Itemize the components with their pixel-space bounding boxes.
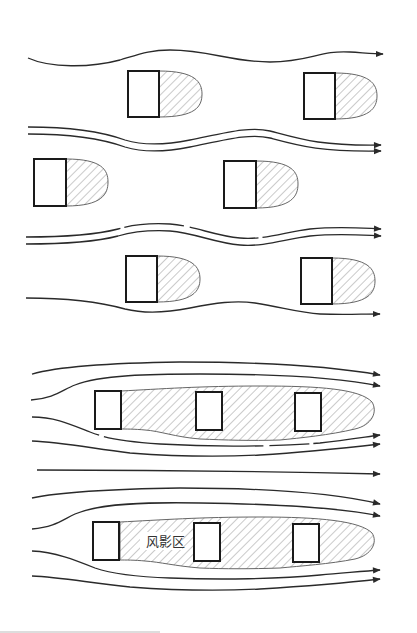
streamline [32,362,380,375]
aligned-layout-panel: 风影区 [31,362,380,590]
building [95,391,121,429]
streamline [28,127,381,145]
wind-shadow-wake [256,161,298,208]
building [304,73,335,119]
streamline [32,441,380,456]
building [34,159,66,206]
staggered-layout-panel [26,50,383,314]
building [293,524,319,562]
streamline [37,470,380,474]
streamline [28,50,383,66]
streamline [26,231,381,246]
wind-shadow-zone [121,386,374,440]
streamline [32,576,380,590]
streamline [32,488,380,504]
wind-shadow-wake [157,256,200,302]
building [196,392,222,430]
building [128,71,159,117]
building [295,393,321,431]
streamline [26,224,381,239]
building [301,258,332,304]
building [93,522,119,560]
wind-shadow-wake [332,258,375,304]
airflow-diagram: 风影区 [0,0,417,633]
wind-shadow-wake [335,73,377,119]
wind-shadow-wake [159,71,202,117]
building [194,523,220,561]
wind-shadow-wake [66,159,108,206]
building [224,161,256,208]
wind-shadow-zone-label: 风影区 [146,534,185,549]
building [126,256,157,302]
